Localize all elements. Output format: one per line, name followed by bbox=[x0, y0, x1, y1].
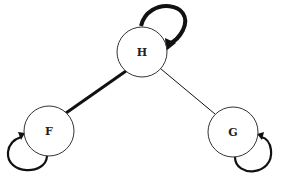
graph-diagram: H F G bbox=[0, 0, 283, 179]
node-g-label: G bbox=[228, 126, 237, 139]
edge-h-g bbox=[161, 69, 215, 114]
node-h-label: H bbox=[137, 46, 147, 59]
node-f[interactable]: F bbox=[24, 106, 74, 156]
edge-h-f bbox=[66, 71, 126, 113]
node-g[interactable]: G bbox=[208, 107, 258, 157]
node-h[interactable]: H bbox=[117, 27, 167, 77]
node-f-label: F bbox=[45, 125, 53, 138]
